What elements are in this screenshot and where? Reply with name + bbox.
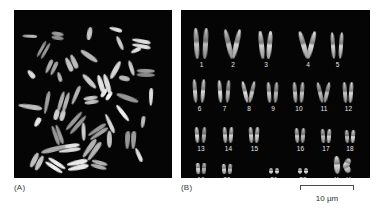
chromosome-label: 20 [220, 176, 234, 178]
chromatid [201, 127, 206, 143]
chromosome-pair-5: 5 [329, 32, 346, 59]
chromatid [304, 168, 308, 174]
chromatid [221, 164, 225, 174]
scale-bar-label: 10 µm [296, 194, 358, 203]
chromosome-label: 8 [241, 105, 257, 112]
chromatid [225, 80, 231, 103]
chromosome-pair-1: 1 [192, 28, 211, 59]
chromosome-pair-2: 2 [223, 29, 243, 59]
chromosome [109, 26, 122, 33]
sister-chromatid [51, 35, 63, 40]
chromosome-label: 21 [267, 176, 281, 178]
chromosome [127, 59, 136, 76]
chromatid [299, 82, 305, 103]
chromosome-label: 12 [341, 105, 356, 112]
chromatid [202, 28, 209, 59]
chromosome-label: X Y [333, 176, 355, 178]
chromosome-label: 6 [191, 105, 208, 112]
chromosome-pair-x-y: X Y [333, 156, 355, 174]
chromosome-pair-17: 17 [319, 129, 333, 143]
chromatid [217, 80, 223, 103]
chromosome [70, 85, 81, 105]
chromosome-label: 15 [247, 145, 262, 152]
chromatid [298, 168, 302, 174]
chromosome-label: 4 [299, 61, 317, 68]
chromatid [255, 127, 260, 143]
chromosome [140, 116, 146, 128]
chromatid [344, 130, 349, 143]
scale-bar-rule [300, 185, 354, 190]
chromosome-label: 1 [192, 61, 211, 68]
chromatid [195, 127, 200, 143]
chromatid [323, 82, 332, 103]
chromosome-pair-6: 6 [191, 79, 208, 103]
chromosome-label: 22 [296, 176, 310, 178]
chromatid [201, 163, 205, 174]
chromosome-label: 19 [194, 176, 208, 178]
chromosome [107, 131, 112, 148]
scale-bar [300, 185, 354, 193]
chromatid [275, 168, 279, 174]
chromatid [222, 127, 227, 143]
chromosome-label: 14 [221, 145, 236, 152]
chromatid [306, 31, 317, 59]
chromosome-pair-22: 22 [296, 168, 310, 174]
sister-chromatid [137, 73, 155, 77]
chromatid [350, 130, 355, 143]
chromatid [248, 81, 257, 103]
chromosome-label: 18 [343, 145, 357, 152]
sister-chromatid [85, 99, 99, 104]
chromatid [334, 156, 341, 174]
chromosome [82, 123, 86, 141]
chromosome-pair-18: 18 [343, 130, 357, 143]
chromosome-pair-16: 16 [293, 128, 308, 143]
chromosome [80, 49, 99, 64]
chromosome [22, 35, 37, 39]
figure-root: (A) 12345678910111213141516171819202122X… [0, 0, 376, 211]
chromatid [266, 31, 273, 59]
chromosome-label: 17 [319, 145, 333, 152]
chromosome-label: 10 [291, 105, 307, 112]
chromosome [32, 116, 41, 127]
chromatid [258, 31, 266, 59]
chromatid [200, 79, 206, 103]
panel-b-karyotype: 12345678910111213141516171819202122X Y [181, 10, 370, 178]
chromatid [342, 162, 352, 174]
chromatid [269, 168, 273, 174]
chromosome-pair-15: 15 [247, 127, 262, 143]
chromosome [57, 72, 63, 83]
chromatid [320, 129, 325, 143]
chromosome-pair-20: 20 [220, 164, 234, 174]
chromosome-pair-21: 21 [267, 168, 281, 174]
chromosome [115, 91, 139, 103]
panel-a-label: (A) [14, 183, 25, 192]
chromatid [292, 82, 298, 103]
chromosome-label: 7 [216, 105, 233, 112]
chromatid [294, 128, 299, 143]
chromosome-pair-10: 10 [291, 82, 307, 103]
chromosome-pair-4: 4 [299, 31, 317, 59]
chromosome [115, 104, 130, 122]
chromatid [301, 128, 306, 143]
chromosome-pair-11: 11 [316, 82, 332, 103]
chromatid [192, 79, 198, 103]
chromosome [43, 90, 51, 113]
panel-a-metaphase-spread [14, 10, 172, 178]
chromatid [342, 82, 347, 103]
chromosome-pair-3: 3 [257, 31, 275, 59]
chromatid [266, 82, 272, 103]
chromosome [134, 147, 144, 163]
chromosome-label: 3 [257, 61, 275, 68]
chromosome [86, 27, 93, 41]
chromosome-pair-9: 9 [265, 82, 281, 103]
chromosome [81, 73, 97, 90]
chromatid [349, 82, 354, 103]
chromatid [194, 28, 201, 59]
chromatid [330, 32, 336, 59]
chromosome-label: 5 [329, 61, 346, 68]
chromosome [149, 88, 154, 106]
panel-b-label: (B) [181, 183, 192, 192]
chromatid [273, 82, 279, 103]
chromosome-pair-7: 7 [216, 80, 233, 103]
sister-chromatid [130, 131, 135, 149]
